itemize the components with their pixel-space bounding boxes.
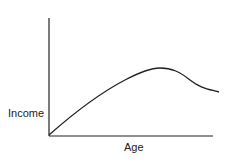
y-axis-label: Income: [8, 107, 44, 119]
income-curve: [49, 68, 219, 135]
income-age-chart: [0, 0, 231, 164]
x-axis-label: Age: [124, 141, 144, 153]
